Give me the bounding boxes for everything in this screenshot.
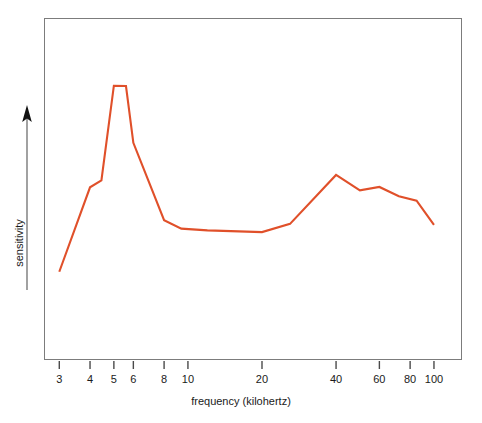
x-tick-label-3: 3 [56, 374, 62, 385]
x-axis-tick-marks [59, 361, 434, 369]
x-tick-label-4: 4 [87, 374, 93, 385]
plot-frame [44, 18, 462, 360]
x-tick-label-80: 80 [404, 374, 416, 385]
x-tick-label-6: 6 [130, 374, 136, 385]
x-tick-label-40: 40 [330, 374, 342, 385]
y-axis-title: sensitivity [13, 203, 25, 283]
x-tick-label-60: 60 [373, 374, 385, 385]
x-tick-label-10: 10 [182, 374, 194, 385]
x-tick-label-5: 5 [111, 374, 117, 385]
figure: 345681020406080100 frequency (kilohertz)… [0, 0, 482, 423]
x-axis-title: frequency (kilohertz) [0, 395, 482, 407]
x-tick-label-100: 100 [425, 374, 443, 385]
x-tick-label-8: 8 [161, 374, 167, 385]
x-tick-label-20: 20 [256, 374, 268, 385]
